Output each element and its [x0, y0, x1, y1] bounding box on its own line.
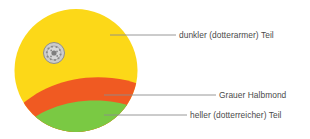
callout-label-grey-crescent: Grauer Halbmond	[219, 90, 286, 100]
callout-label-dark-yolk: dunkler (dotterarmer) Teil	[179, 30, 274, 40]
callout-label-light-yolk: heller (dotterreicher) Teil	[190, 110, 282, 120]
germinal-disc-icon	[44, 43, 65, 64]
yolk-diagram-figure: dunkler (dotterarmer) Teil Grauer Halbmo…	[0, 0, 310, 139]
